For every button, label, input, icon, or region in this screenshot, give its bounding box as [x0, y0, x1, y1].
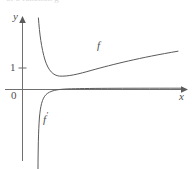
y-tick-label-1: 1 [10, 62, 16, 73]
curve-f-prime [38, 88, 182, 169]
y-axis-label: y [13, 11, 18, 22]
y-axis-arrowhead [19, 16, 26, 23]
curve-label-f-prime: f′ [43, 111, 48, 125]
x-axis-label: x [179, 91, 184, 102]
origin-label: 0 [11, 90, 17, 101]
curve-f [38, 18, 178, 76]
prime-symbol: ′ [46, 110, 48, 120]
figure-canvas [0, 0, 192, 169]
math-figure: of a function g y x 1 0 f f′ [0, 0, 192, 169]
curve-label-f: f [97, 40, 100, 51]
